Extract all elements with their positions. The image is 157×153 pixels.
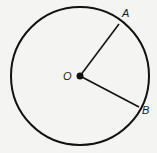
radius-ob [80, 76, 139, 107]
diagram-canvas: O A B [0, 0, 157, 153]
radius-oa [80, 24, 119, 76]
point-b-label: B [142, 104, 149, 116]
circle-diagram: O A B [0, 0, 157, 153]
center-label: O [63, 70, 72, 82]
center-point [77, 73, 84, 80]
point-a-label: A [121, 7, 129, 19]
